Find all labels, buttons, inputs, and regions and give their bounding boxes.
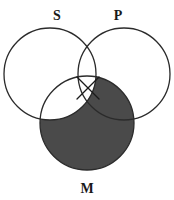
label-m: M [80, 181, 93, 196]
venn-diagram-canvas: S P M [0, 0, 174, 200]
label-s: S [53, 8, 61, 23]
label-p: P [114, 8, 123, 23]
venn-diagram-svg: S P M [0, 0, 174, 200]
